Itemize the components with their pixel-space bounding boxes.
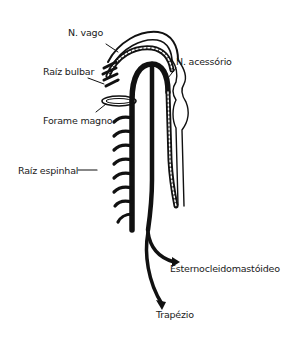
label-spinal-root: Raíz espinhal [18,166,78,176]
label-vagus-nerve: N. vago [68,28,103,38]
label-accessory-nerve: N. acessório [176,57,232,67]
jugular-ganglion-outline-right [178,60,188,206]
branch-trapezius [147,232,162,304]
label-trapezius: Trapézio [156,310,194,320]
accessory-trunk [148,64,152,230]
branch-sternocleidomastoid [148,232,174,262]
label-foramen-magnum: Forame magno [43,116,112,126]
label-bulbar-root: Raíz bulbar [43,67,94,77]
label-sternocleidomastoid: Esternocleidomastóideo [170,264,280,274]
